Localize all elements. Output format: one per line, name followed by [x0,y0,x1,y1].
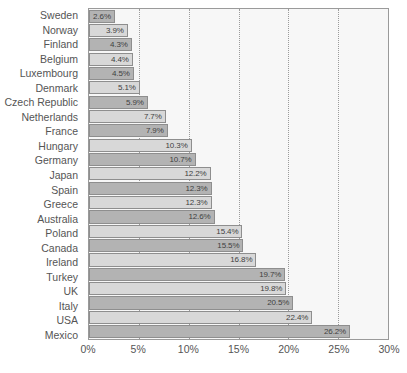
bar-value-label: 4.3% [110,40,131,49]
bar-value-label: 4.4% [111,55,132,64]
bar-row: 15.5% [89,239,388,253]
x-axis-tick-label: 5% [131,343,146,355]
bar-row: 5.1% [89,81,388,95]
bar-value-label: 12.2% [184,169,209,178]
category-label: UK [0,284,83,299]
category-label: France [0,124,83,139]
bar-value-label: 22.4% [286,313,311,322]
category-label: Sweden [0,8,83,23]
bar-row: 2.6% [89,9,388,23]
category-label: Mexico [0,328,83,343]
category-label: Italy [0,299,83,314]
bar-row: 3.9% [89,23,388,37]
bar-row: 15.4% [89,224,388,238]
bar: 12.6% [89,210,215,223]
bar-row: 4.5% [89,66,388,80]
x-axis-tick-label: 10% [178,343,199,355]
category-label: Belgium [0,52,83,67]
bar: 15.5% [89,239,243,252]
bar-value-label: 10.7% [169,155,194,164]
bar: 10.7% [89,153,196,166]
category-label: Ireland [0,255,83,270]
bar: 16.8% [89,253,256,266]
bar: 4.4% [89,53,133,66]
bar: 7.9% [89,124,168,137]
bar-value-label: 12.3% [185,184,210,193]
category-label: Japan [0,168,83,183]
category-label: Denmark [0,81,83,96]
bar-row: 7.9% [89,124,388,138]
bar: 26.2% [89,325,350,338]
bar: 12.3% [89,182,212,195]
bar-value-label: 19.7% [259,270,284,279]
x-axis-tick-label: 25% [328,343,349,355]
category-label: Czech Republic [0,95,83,110]
bar-value-label: 2.6% [93,12,114,21]
bar: 22.4% [89,311,312,324]
category-label: Canada [0,241,83,256]
x-axis-tick-label: 30% [378,343,399,355]
bar-value-label: 26.2% [324,327,349,336]
bar-value-label: 20.5% [267,298,292,307]
bar-value-label: 12.3% [185,198,210,207]
bar-value-label: 10.3% [165,141,190,150]
bar-row: 4.3% [89,38,388,52]
category-label: Turkey [0,270,83,285]
bar-row: 5.9% [89,95,388,109]
bar: 12.2% [89,167,211,180]
bar-value-label: 5.1% [118,83,139,92]
bar: 2.6% [89,10,115,23]
bar-row: 16.8% [89,253,388,267]
category-label: Hungary [0,139,83,154]
bar-value-label: 7.9% [146,126,167,135]
bar: 19.8% [89,282,286,295]
bar: 3.9% [89,24,128,37]
bar-row: 10.3% [89,138,388,152]
bar-row: 12.6% [89,210,388,224]
bar-row: 19.8% [89,282,388,296]
bar-value-label: 16.8% [230,255,255,264]
category-label: Luxembourg [0,66,83,81]
category-label: Germany [0,153,83,168]
bar-row: 12.2% [89,167,388,181]
bar-row: 12.3% [89,195,388,209]
bar: 5.1% [89,81,140,94]
category-label: Spain [0,183,83,198]
category-label: Greece [0,197,83,212]
plot-area: 2.6%3.9%4.3%4.4%4.5%5.1%5.9%7.7%7.9%10.3… [88,8,389,340]
bar-chart: SwedenNorwayFinlandBelgiumLuxembourgDenm… [0,0,407,373]
bar: 4.5% [89,67,134,80]
bar-row: 22.4% [89,310,388,324]
bar-value-label: 5.9% [126,98,147,107]
bar-value-label: 19.8% [260,284,285,293]
bar-series: 2.6%3.9%4.3%4.4%4.5%5.1%5.9%7.7%7.9%10.3… [89,9,388,339]
bar-row: 7.7% [89,109,388,123]
bar-row: 19.7% [89,267,388,281]
bar: 15.4% [89,225,242,238]
category-label: Finland [0,37,83,52]
bar-row: 26.2% [89,325,388,339]
bar-value-label: 15.5% [217,241,242,250]
bar: 12.3% [89,196,212,209]
bar-row: 12.3% [89,181,388,195]
bar-value-label: 4.5% [112,69,133,78]
bar: 4.3% [89,38,132,51]
category-label: USA [0,313,83,328]
bar-value-label: 15.4% [216,227,241,236]
x-axis-tick-label: 20% [278,343,299,355]
category-axis: SwedenNorwayFinlandBelgiumLuxembourgDenm… [0,8,83,343]
bar: 7.7% [89,110,166,123]
bar: 19.7% [89,268,285,281]
category-label: Netherlands [0,110,83,125]
bar-value-label: 7.7% [144,112,165,121]
bar-value-label: 12.6% [188,212,213,221]
x-axis: 0%5%10%15%20%25%30% [88,343,389,359]
category-label: Poland [0,226,83,241]
x-axis-tick-label: 15% [228,343,249,355]
bar: 20.5% [89,296,293,309]
bar-value-label: 3.9% [106,26,127,35]
bar-row: 4.4% [89,52,388,66]
x-axis-tick-label: 0% [80,343,95,355]
bar: 5.9% [89,96,148,109]
bar-row: 20.5% [89,296,388,310]
